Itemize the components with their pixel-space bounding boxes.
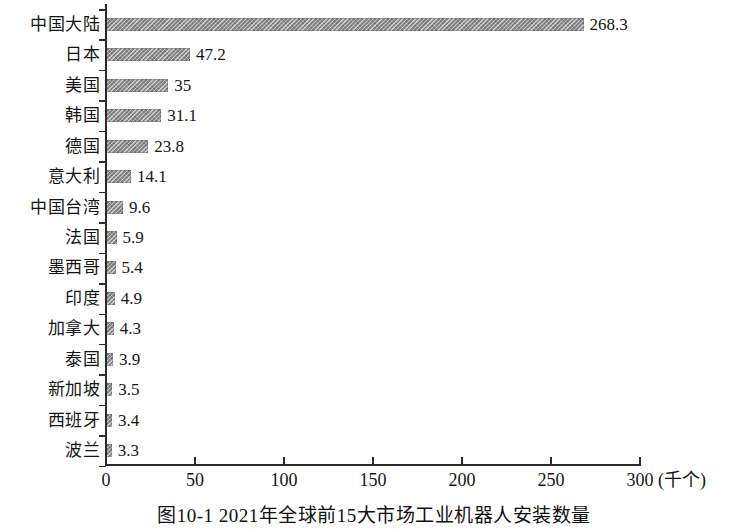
y-axis-tick <box>99 405 106 407</box>
bar-and-value: 35 <box>106 70 191 101</box>
bar-row: 新加坡3.5 <box>0 374 748 405</box>
bar-value-label: 9.6 <box>129 199 150 216</box>
chart-plot-area: 中国大陆268.3日本47.2美国35韩国31.1德国23.8意大利14.1中国… <box>0 0 748 470</box>
bar-and-value: 9.6 <box>106 192 150 223</box>
bar[interactable] <box>106 109 161 122</box>
y-axis-tick <box>99 70 106 72</box>
y-axis-tick <box>99 39 106 41</box>
bar-value-label: 5.9 <box>123 229 144 246</box>
bar-value-label: 3.4 <box>118 412 139 429</box>
bar-row: 加拿大4.3 <box>0 314 748 345</box>
bar-and-value: 4.9 <box>106 283 142 314</box>
bar[interactable] <box>106 231 117 244</box>
category-label: 西班牙 <box>0 411 100 430</box>
bar-row: 日本47.2 <box>0 39 748 70</box>
bar-value-label: 14.1 <box>137 168 167 185</box>
bar-and-value: 23.8 <box>106 131 184 162</box>
x-axis-tick-label: 250 <box>538 470 565 490</box>
bar-and-value: 31.1 <box>106 100 197 131</box>
category-label: 墨西哥 <box>0 258 100 277</box>
y-axis-tick <box>99 466 106 468</box>
x-axis-tick <box>283 457 285 465</box>
category-label: 韩国 <box>0 106 100 125</box>
category-label: 中国大陆 <box>0 15 100 34</box>
x-axis-tick <box>461 457 463 465</box>
bar-row: 中国大陆268.3 <box>0 9 748 40</box>
bar-value-label: 23.8 <box>154 138 184 155</box>
x-axis-tick-label: 50 <box>186 470 204 490</box>
bar-value-label: 35 <box>174 77 191 94</box>
y-axis-tick <box>99 253 106 255</box>
bar-row: 西班牙3.4 <box>0 405 748 436</box>
category-label: 日本 <box>0 45 100 64</box>
category-label: 法国 <box>0 228 100 247</box>
y-axis-tick <box>99 314 106 316</box>
category-label: 新加坡 <box>0 380 100 399</box>
bar[interactable] <box>106 292 115 305</box>
bar-value-label: 31.1 <box>167 107 197 124</box>
bar-row: 美国35 <box>0 70 748 101</box>
x-axis-tick-label: 200 <box>449 470 476 490</box>
y-axis-tick <box>99 374 106 376</box>
bar-value-label: 4.3 <box>120 320 141 337</box>
bar[interactable] <box>106 261 116 274</box>
bar[interactable] <box>106 79 168 92</box>
bar[interactable] <box>106 322 114 335</box>
y-axis-tick <box>99 100 106 102</box>
category-label: 印度 <box>0 289 100 308</box>
category-label: 意大利 <box>0 167 100 186</box>
category-label: 美国 <box>0 76 100 95</box>
bar-value-label: 3.5 <box>118 381 139 398</box>
bar[interactable] <box>106 201 123 214</box>
x-axis-tick <box>372 457 374 465</box>
bar-row: 德国23.8 <box>0 131 748 162</box>
bar-value-label: 268.3 <box>590 16 628 33</box>
bar-value-label: 5.4 <box>122 259 143 276</box>
bar-value-label: 4.9 <box>121 290 142 307</box>
figure-caption: 图10-1 2021年全球前15大市场工业机器人安装数量 <box>0 503 748 529</box>
bar[interactable] <box>106 48 190 61</box>
category-label: 泰国 <box>0 350 100 369</box>
bar-and-value: 268.3 <box>106 9 628 40</box>
bar-value-label: 3.3 <box>118 442 139 459</box>
bar-rows: 中国大陆268.3日本47.2美国35韩国31.1德国23.8意大利14.1中国… <box>0 0 748 465</box>
y-axis-tick <box>99 192 106 194</box>
bar-row: 印度4.9 <box>0 283 748 314</box>
y-axis-tick <box>99 161 106 163</box>
bar[interactable] <box>106 140 148 153</box>
bar-row: 中国台湾9.6 <box>0 192 748 223</box>
bar-and-value: 3.5 <box>106 374 139 405</box>
bar-and-value: 14.1 <box>106 161 167 192</box>
bar-row: 墨西哥5.4 <box>0 253 748 284</box>
bar-and-value: 3.4 <box>106 405 139 436</box>
bar-and-value: 3.3 <box>106 435 139 466</box>
bar[interactable] <box>106 353 113 366</box>
bar-row: 泰国3.9 <box>0 344 748 375</box>
y-axis-line <box>105 4 107 466</box>
bar-value-label: 3.9 <box>119 351 140 368</box>
y-axis-tick <box>99 283 106 285</box>
bar-row: 波兰3.3 <box>0 435 748 466</box>
bar-and-value: 4.3 <box>106 314 141 345</box>
category-label: 德国 <box>0 137 100 156</box>
y-axis-tick <box>99 9 106 11</box>
x-axis-tick-label: 150 <box>360 470 387 490</box>
bar-row: 韩国31.1 <box>0 100 748 131</box>
y-axis-tick <box>99 222 106 224</box>
category-label: 中国台湾 <box>0 198 100 217</box>
bar-and-value: 5.4 <box>106 253 143 284</box>
bar-and-value: 47.2 <box>106 39 226 70</box>
y-axis-tick <box>99 344 106 346</box>
bar-and-value: 3.9 <box>106 344 140 375</box>
bar-value-label: 47.2 <box>196 46 226 63</box>
bar-row: 法国5.9 <box>0 222 748 253</box>
x-axis-tick <box>639 457 641 466</box>
x-axis-tick-label: 100 <box>271 470 298 490</box>
bar-row: 意大利14.1 <box>0 161 748 192</box>
bar[interactable] <box>106 18 584 31</box>
category-label: 加拿大 <box>0 319 100 338</box>
x-axis-tick <box>550 457 552 465</box>
bar[interactable] <box>106 170 131 183</box>
x-axis-tick-label: 0 <box>102 470 111 490</box>
y-axis-tick <box>99 435 106 437</box>
